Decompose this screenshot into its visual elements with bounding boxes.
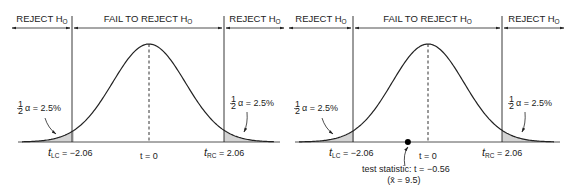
- label-reject-right: REJECT HO: [229, 13, 280, 25]
- label-reject-right: REJECT HO: [508, 13, 559, 25]
- panel-right: REJECT HO FAIL TO REJECT HO REJECT HO 1 …: [289, 13, 564, 185]
- alpha-label-left: 1 2 α = 2.5%: [294, 99, 338, 116]
- svg-text:2: 2: [295, 106, 300, 116]
- label-fail-to-reject: FAIL TO REJECT HO: [104, 13, 193, 25]
- svg-text:α = 2.5%: α = 2.5%: [238, 98, 274, 108]
- svg-text:α = 2.5%: α = 2.5%: [302, 103, 338, 113]
- alpha-label-right: 1 2 α = 2.5%: [508, 94, 552, 111]
- alpha-label-left: 1 2 α = 2.5%: [17, 99, 61, 116]
- hypothesis-test-diagram: REJECT HO FAIL TO REJECT HO REJECT HO 1 …: [0, 0, 576, 193]
- label-fail-to-reject: FAIL TO REJECT HO: [383, 13, 472, 25]
- t-distribution-curve: [299, 44, 554, 142]
- svg-text:2: 2: [509, 101, 514, 111]
- svg-text:2: 2: [18, 106, 23, 116]
- label-test-statistic: test statistic: t = −0.56: [362, 164, 450, 174]
- svg-text:2: 2: [231, 101, 236, 111]
- pointer-alpha-right: [244, 112, 247, 132]
- svg-text:α = 2.5%: α = 2.5%: [516, 98, 552, 108]
- pointer-alpha-right: [522, 112, 525, 132]
- t-distribution-curve: [22, 44, 274, 142]
- label-t-lc: tLC = −2.06: [48, 146, 92, 159]
- label-t-zero: t = 0: [419, 151, 437, 161]
- pointer-alpha-left: [322, 118, 333, 134]
- label-reject-left: REJECT HO: [16, 13, 67, 25]
- label-t-zero: t = 0: [140, 151, 158, 161]
- alpha-label-right: 1 2 α = 2.5%: [230, 94, 274, 111]
- pointer-alpha-left: [45, 118, 56, 134]
- svg-text:α = 2.5%: α = 2.5%: [25, 103, 61, 113]
- label-reject-left: REJECT HO: [295, 13, 346, 25]
- label-sample-mean: (x̄ = 9.5): [387, 175, 420, 185]
- label-t-rc: tRC = 2.06: [204, 146, 244, 159]
- label-t-rc: tRC = 2.06: [482, 146, 522, 159]
- panel-left: REJECT HO FAIL TO REJECT HO REJECT HO 1 …: [12, 13, 284, 161]
- label-t-lc: tLC = −2.06: [329, 146, 373, 159]
- test-statistic-point: [405, 139, 411, 145]
